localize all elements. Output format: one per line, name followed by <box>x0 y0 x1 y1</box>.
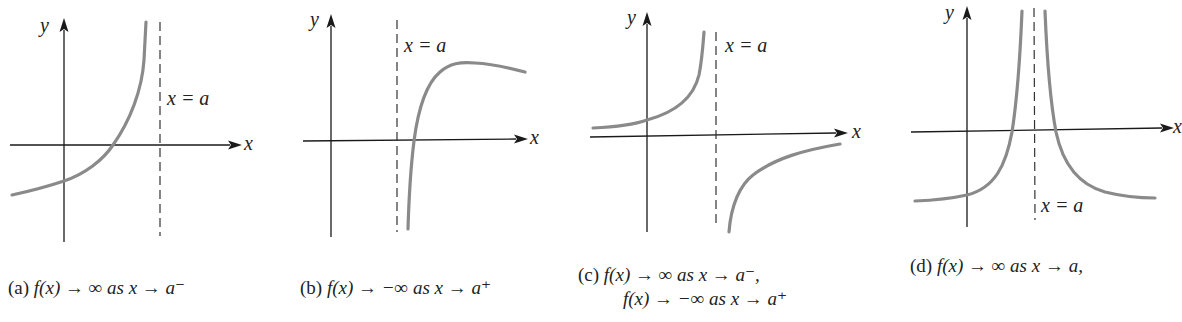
function-curve-left-branch <box>915 11 1022 201</box>
panel-c: y x x = a (c) f(x) → ∞ as x → a⁻, f(x) →… <box>575 0 880 322</box>
vertical-asymptote <box>1034 8 1035 220</box>
y-axis-label: y <box>627 7 636 27</box>
x-axis-arrow-icon <box>514 135 528 144</box>
function-curve <box>12 22 146 195</box>
panel-b: y x x = a (b) f(x) → −∞ as x → a⁺ <box>290 0 575 322</box>
caption-prefix: (b) <box>300 277 322 298</box>
x-axis-arrow-icon <box>834 129 848 138</box>
caption-line2: f(x) → −∞ as x → a⁺ <box>623 287 787 311</box>
caption-text: f(x) → ∞ as x → a⁻ <box>34 277 185 298</box>
x-axis <box>590 133 836 137</box>
y-axis-label: y <box>945 2 954 22</box>
caption: (d) f(x) → ∞ as x → a, <box>910 254 1083 278</box>
caption-text-line1: f(x) → ∞ as x → a⁻, <box>604 264 760 285</box>
x-axis <box>911 128 1162 132</box>
x-axis-arrow-icon <box>228 141 242 150</box>
y-axis-label: y <box>40 15 49 35</box>
y-axis-arrow-icon <box>60 18 69 32</box>
asymptote-label: x = a <box>1041 195 1083 215</box>
y-axis-arrow-icon <box>327 14 336 28</box>
y-axis-arrow-icon <box>963 6 972 20</box>
x-axis-arrow-icon <box>1160 124 1174 133</box>
x-axis-label: x <box>1173 116 1182 136</box>
caption-text: f(x) → −∞ as x → a⁺ <box>327 277 491 298</box>
function-curve <box>408 63 525 229</box>
graph-a <box>0 0 290 322</box>
caption-prefix: (c) <box>578 264 599 285</box>
y-axis-arrow-icon <box>643 12 652 26</box>
function-curve-right-branch <box>1045 11 1155 198</box>
x-axis-label: x <box>244 133 253 153</box>
x-axis-label: x <box>530 127 539 147</box>
function-curve-right-branch <box>729 144 840 232</box>
caption: (b) f(x) → −∞ as x → a⁺ <box>300 276 491 300</box>
panel-d: y x x = a (d) f(x) → ∞ as x → a, <box>880 0 1180 322</box>
function-curve-left-branch <box>593 32 704 128</box>
caption-text: f(x) → ∞ as x → a, <box>937 255 1083 276</box>
asymptote-label: x = a <box>167 88 209 108</box>
caption: (c) f(x) → ∞ as x → a⁻, <box>578 263 760 287</box>
x-axis-label: x <box>852 121 861 141</box>
caption-text-line2: f(x) → −∞ as x → a⁺ <box>623 288 787 309</box>
caption-prefix: (a) <box>8 277 29 298</box>
panel-a: y x x = a (a) f(x) → ∞ as x → a⁻ <box>0 0 290 322</box>
caption: (a) f(x) → ∞ as x → a⁻ <box>8 276 185 300</box>
x-axis <box>303 139 516 141</box>
caption-prefix: (d) <box>910 255 932 276</box>
y-axis-label: y <box>310 9 319 29</box>
asymptote-label: x = a <box>404 35 446 55</box>
asymptote-label: x = a <box>725 35 767 55</box>
